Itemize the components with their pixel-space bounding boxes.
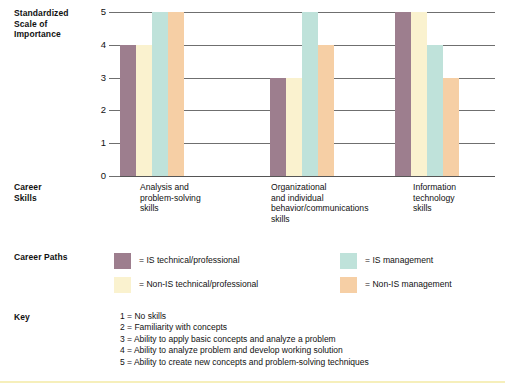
tick-stub-5 <box>109 12 120 13</box>
y-tick-label-3: 3 <box>92 73 106 83</box>
category-label-line: behavior/communications <box>271 203 401 214</box>
category-label-line: skills <box>413 203 505 214</box>
tick-stub-2 <box>109 110 120 111</box>
legend-swatch-icon-1 <box>114 277 131 293</box>
tick-stub-3 <box>109 78 120 79</box>
bar-g1-s3 <box>318 45 334 176</box>
y-tick-label-4: 4 <box>92 40 106 50</box>
category-label-line: and individual <box>271 193 401 204</box>
bar-g0-s1 <box>136 45 152 176</box>
bar-g2-s3 <box>443 78 459 176</box>
bar-g1-s1 <box>286 78 302 176</box>
key-item-4: 4 = Ability to analyze problem and devel… <box>120 345 500 356</box>
category-label-1: Organizationaland individualbehavior/com… <box>271 182 401 224</box>
bar-g1-s2 <box>302 12 318 176</box>
x-axis-title: CareerSkills <box>14 182 100 203</box>
key-list: 1 = No skills2 = Familiarity with concep… <box>120 311 500 368</box>
y-tick-label-5: 5 <box>92 7 106 17</box>
category-label-line: Organizational <box>271 182 401 193</box>
tick-stub-4 <box>109 45 120 46</box>
key-item-5: 5 = Ability to create new concepts and p… <box>120 357 500 368</box>
tick-stub-1 <box>109 143 120 144</box>
legend-label-0: = IS technical/professional <box>139 255 240 266</box>
bar-g2-s2 <box>427 45 443 176</box>
bar-g1-s0 <box>270 78 286 176</box>
legend-title: Career Paths <box>14 252 104 263</box>
category-label-line: problem-solving <box>140 193 260 204</box>
category-label-2: Informationtechnologyskills <box>413 182 505 214</box>
category-label-line: skills <box>140 203 260 214</box>
category-label-line: Analysis and <box>140 182 260 193</box>
category-label-line: skills <box>271 214 401 225</box>
key-title: Key <box>14 312 100 323</box>
category-label-line: Information <box>413 182 505 193</box>
bottom-divider <box>0 381 505 383</box>
y-axis-title: StandardizedScale ofImportance <box>14 8 100 40</box>
chart-plot-area: 012345 <box>120 12 495 176</box>
category-label-line: technology <box>413 193 505 204</box>
category-label-0: Analysis andproblem-solvingskills <box>140 182 260 214</box>
bar-g2-s1 <box>411 12 427 176</box>
bar-g0-s3 <box>168 12 184 176</box>
gridline-0 <box>120 176 495 177</box>
bar-g0-s2 <box>152 12 168 176</box>
legend-label-1: = Non-IS technical/professional <box>139 279 258 290</box>
legend-swatch-icon-0 <box>114 253 131 269</box>
key-item-3: 3 = Ability to apply basic concepts and … <box>120 334 500 345</box>
legend-label-3: = Non-IS management <box>365 279 452 290</box>
legend-swatch-icon-3 <box>340 277 357 293</box>
key-item-1: 1 = No skills <box>120 311 500 322</box>
bar-g0-s0 <box>120 45 136 176</box>
y-tick-label-0: 0 <box>92 171 106 181</box>
bar-g2-s0 <box>395 12 411 176</box>
legend-swatch-icon-2 <box>340 253 357 269</box>
key-item-2: 2 = Familiarity with concepts <box>120 322 500 333</box>
y-tick-label-1: 1 <box>92 138 106 148</box>
y-tick-label-2: 2 <box>92 105 106 115</box>
tick-stub-0 <box>109 176 120 177</box>
legend-label-2: = IS management <box>365 255 433 266</box>
